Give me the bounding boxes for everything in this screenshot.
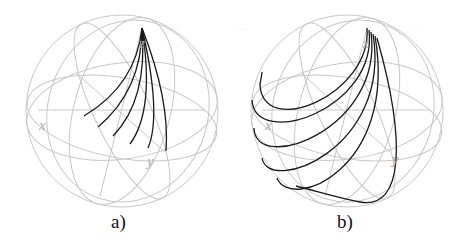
- faint-text-right: ·········: [410, 29, 422, 34]
- meridian-2: [56, 12, 188, 210]
- meridian-1: [51, 6, 193, 216]
- great-circle-1: [20, 50, 223, 172]
- meridian-3: [23, 0, 232, 223]
- panel-caption-b: b): [337, 211, 353, 233]
- axis-label-y: y: [145, 153, 154, 169]
- panel-a-sphere: z x y: [20, 0, 232, 223]
- faint-text-left: ··········: [236, 27, 249, 32]
- panel-caption-a: a): [111, 211, 126, 233]
- axis-label-z: z: [362, 35, 369, 51]
- sphere-outline: [26, 15, 218, 207]
- meridian-3: [248, 0, 457, 223]
- axis-label-z: z: [138, 35, 145, 51]
- equator-circle: [21, 62, 224, 174]
- figure-canvas: z x y ·········· ········· z x y: [0, 0, 465, 250]
- axis-label-x: x: [264, 117, 272, 133]
- axis-label-x: x: [38, 117, 46, 133]
- panel-b-sphere: ·········· ········· z x y: [236, 0, 458, 223]
- trajectories-a: [84, 28, 167, 151]
- axis-label-y: y: [390, 151, 399, 167]
- trajectories-b: [252, 28, 396, 203]
